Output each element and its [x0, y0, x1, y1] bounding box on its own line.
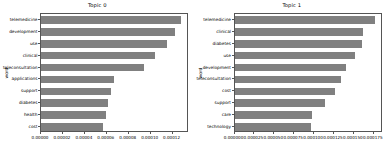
x-tick-label: 0.00012 — [163, 135, 180, 140]
bar — [235, 52, 356, 60]
y-tick-label: technology — [207, 124, 231, 129]
y-tick-label: applications — [12, 76, 38, 81]
bar — [41, 111, 106, 119]
y-tick-mark — [232, 55, 234, 56]
y-tick-label: use — [223, 52, 231, 57]
x-tick-mark — [273, 132, 274, 134]
bar — [41, 99, 108, 107]
y-tick-label: clinical — [216, 28, 231, 33]
x-tick-label: 0.000125 — [323, 135, 343, 140]
chart-title: Topic 0 — [0, 2, 195, 8]
bar — [41, 52, 155, 60]
x-tick-label: 0.000000 — [224, 135, 244, 140]
y-tick-mark — [38, 19, 40, 20]
x-tick-label: 0.00004 — [75, 135, 92, 140]
x-tick-mark — [293, 132, 294, 134]
x-tick-mark — [253, 132, 254, 134]
x-tick-label: 0.00006 — [97, 135, 114, 140]
x-tick-label: 0.00002 — [53, 135, 70, 140]
y-tick-mark — [232, 43, 234, 44]
bar — [235, 64, 346, 72]
x-tick-label: 0.000050 — [264, 135, 284, 140]
bar — [41, 88, 111, 96]
x-tick-label: 0.000150 — [343, 135, 363, 140]
y-tick-label: diabetes — [213, 40, 232, 45]
x-tick-mark — [62, 132, 63, 134]
bar — [235, 16, 375, 24]
x-tick-mark — [373, 132, 374, 134]
plot-area — [40, 13, 188, 132]
y-tick-label: health — [24, 112, 38, 117]
x-tick-mark — [150, 132, 151, 134]
bar — [41, 16, 181, 24]
x-tick-mark — [234, 132, 235, 134]
y-tick-label: care — [222, 112, 231, 117]
figure: Topic 0 word telemedicinedevelopmentusec… — [0, 0, 389, 148]
y-tick-mark — [38, 114, 40, 115]
y-tick-mark — [38, 55, 40, 56]
x-tick-label: 0.00010 — [141, 135, 158, 140]
y-tick-mark — [232, 67, 234, 68]
bar — [235, 28, 364, 36]
y-tick-label: support — [21, 88, 38, 93]
bar — [235, 99, 326, 107]
x-tick-label: 0.000075 — [283, 135, 303, 140]
bar — [41, 64, 144, 72]
y-tick-mark — [232, 114, 234, 115]
bar — [235, 76, 342, 84]
x-tick-mark — [106, 132, 107, 134]
x-tick-label: 0.000025 — [244, 135, 264, 140]
bar — [41, 76, 114, 84]
y-tick-label: development — [203, 64, 231, 69]
y-tick-mark — [38, 31, 40, 32]
y-tick-label: diabetes — [19, 100, 38, 105]
y-tick-mark — [38, 67, 40, 68]
y-tick-label: clinical — [23, 52, 38, 57]
y-tick-label: use — [30, 40, 38, 45]
x-tick-mark — [172, 132, 173, 134]
y-tick-mark — [232, 31, 234, 32]
y-tick-label: cost — [29, 124, 38, 129]
x-tick-mark — [128, 132, 129, 134]
chart-panel-topic-1: Topic 1 word telemedicineclinicaldiabete… — [195, 0, 389, 148]
y-tick-mark — [38, 78, 40, 79]
y-tick-mark — [232, 90, 234, 91]
y-tick-mark — [38, 102, 40, 103]
y-tick-mark — [232, 126, 234, 127]
y-tick-mark — [38, 43, 40, 44]
y-tick-mark — [232, 19, 234, 20]
x-tick-label: 0.000175 — [363, 135, 383, 140]
y-tick-mark — [38, 90, 40, 91]
x-tick-mark — [353, 132, 354, 134]
x-tick-mark — [333, 132, 334, 134]
y-tick-label: cost — [222, 88, 231, 93]
y-tick-mark — [38, 126, 40, 127]
y-tick-label: support — [215, 100, 232, 105]
y-tick-label: teleconsultation — [3, 64, 38, 69]
y-tick-mark — [232, 102, 234, 103]
x-tick-mark — [40, 132, 41, 134]
y-tick-label: telemedicine — [10, 16, 38, 21]
bar — [235, 88, 335, 96]
y-tick-label: telemedicine — [203, 16, 231, 21]
plot-area — [234, 13, 382, 132]
y-tick-label: development — [9, 28, 37, 33]
bar — [41, 28, 175, 36]
x-tick-mark — [84, 132, 85, 134]
x-tick-mark — [313, 132, 314, 134]
bar — [235, 123, 312, 131]
bar — [235, 40, 362, 48]
bar — [235, 111, 313, 119]
chart-title: Topic 1 — [195, 2, 389, 8]
chart-panel-topic-0: Topic 0 word telemedicinedevelopmentusec… — [0, 0, 195, 148]
x-tick-label: 0.00000 — [32, 135, 49, 140]
bar — [41, 123, 103, 131]
bar — [41, 40, 167, 48]
x-tick-label: 0.000100 — [303, 135, 323, 140]
x-tick-label: 0.00008 — [119, 135, 136, 140]
y-tick-mark — [232, 78, 234, 79]
y-tick-label: teleconsultation — [196, 76, 231, 81]
